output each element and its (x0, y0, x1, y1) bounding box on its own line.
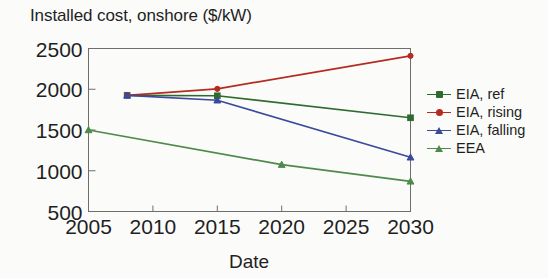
y-tick-label: 1000 (36, 160, 83, 183)
legend-item-label: EEA (456, 141, 485, 156)
x-tick-label: 2025 (323, 215, 370, 238)
data-series-layer (85, 53, 414, 184)
legend-marker-square-icon (436, 91, 443, 98)
legend-marker-circle-icon (436, 109, 443, 116)
x-axis-ticks (153, 206, 346, 212)
y-tick-label: 2500 (36, 38, 83, 61)
x-axis-title: Date (229, 251, 269, 272)
chart-page: Installed cost, onshore ($/kW) 500100015… (0, 0, 548, 278)
plot-frame (89, 49, 411, 212)
data-point-marker (408, 115, 414, 121)
plot-area-border (89, 49, 411, 212)
series-line (127, 95, 410, 157)
legend-item[interactable]: EEA (427, 140, 548, 157)
chart-legend: EIA, refEIA, risingEIA, fallingEEA (427, 86, 548, 158)
series-line (127, 56, 410, 96)
y-tick-label: 2000 (36, 78, 83, 101)
legend-swatch (427, 125, 451, 137)
y-axis-tick-labels: 5001000150020002500 (36, 38, 83, 224)
x-tick-label: 2020 (258, 215, 305, 238)
x-tick-label: 2015 (194, 215, 241, 238)
data-series (125, 53, 414, 98)
legend-swatch (427, 143, 451, 155)
y-tick-label: 1500 (36, 119, 83, 142)
x-tick-label: 2010 (130, 215, 177, 238)
legend-item[interactable]: EIA, ref (427, 86, 548, 103)
legend-item[interactable]: EIA, falling (427, 122, 548, 139)
data-series (85, 127, 414, 184)
data-point-marker (215, 86, 220, 91)
legend-item-label: EIA, falling (456, 123, 525, 138)
legend-item-label: EIA, rising (456, 105, 522, 120)
legend-item[interactable]: EIA, rising (427, 104, 548, 121)
legend-item-label: EIA, ref (456, 87, 504, 102)
x-tick-label: 2030 (387, 215, 434, 238)
series-line (89, 130, 411, 181)
legend-swatch (427, 107, 451, 119)
legend-marker-triangle-icon (435, 145, 443, 152)
x-axis-tick-labels: 200520102015202020252030 (65, 215, 434, 238)
legend-marker-triangle-icon (435, 127, 443, 134)
legend-swatch (427, 89, 451, 101)
data-point-marker (408, 53, 413, 58)
x-tick-label: 2005 (65, 215, 112, 238)
series-line (127, 95, 410, 117)
